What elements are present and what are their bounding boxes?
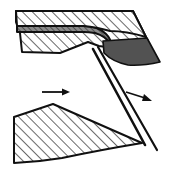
figure-container [0,0,171,175]
chip-formation-diagram [0,0,171,175]
